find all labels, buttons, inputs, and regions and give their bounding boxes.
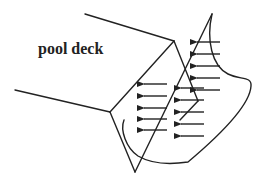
- bottom-deck-edge: [15, 90, 110, 112]
- pool-deck-label: pool deck: [38, 40, 103, 58]
- wall-long-diagonal: [135, 14, 212, 172]
- wall-left-diagonal: [110, 41, 174, 112]
- wall-bottom-edge: [110, 112, 135, 172]
- top-deck-edge: [85, 14, 174, 41]
- pressure-arrows: [144, 42, 220, 136]
- wall-lower-diagonal: [180, 101, 198, 120]
- pool-wall-pressure-diagram: [0, 0, 268, 183]
